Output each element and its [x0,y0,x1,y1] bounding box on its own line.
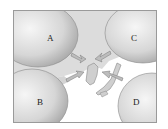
air-mass-label-b: B [37,97,43,107]
air-mass-label-a: A [47,33,54,43]
diagram-frame: A B C D [13,10,157,123]
air-mass-label-d: D [133,97,140,107]
air-mass-label-c: C [131,33,137,43]
